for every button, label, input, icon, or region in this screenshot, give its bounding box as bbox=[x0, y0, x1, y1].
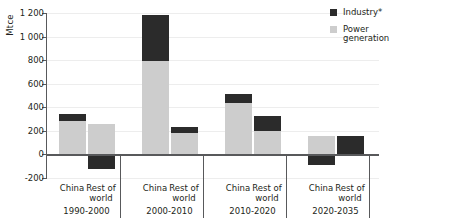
bar-china-1990-2000[interactable] bbox=[59, 13, 86, 178]
chart-container: Mtce 1 2001 0008006004002000-200 ChinaRe… bbox=[0, 0, 452, 221]
category-label-line2: world bbox=[163, 194, 206, 204]
bar-segment-industry bbox=[225, 94, 252, 102]
legend-label-industry: Industry* bbox=[343, 8, 450, 18]
bar-segment-industry bbox=[308, 154, 335, 165]
legend-item-industry[interactable]: Industry* bbox=[330, 8, 450, 18]
y-axis-tick-label: 1 200 bbox=[4, 9, 44, 18]
y-axis-tick-label: 200 bbox=[4, 127, 44, 136]
y-axis-tick-label: 400 bbox=[4, 103, 44, 112]
bar-china-2000-2010[interactable] bbox=[142, 13, 169, 178]
period-label: 2010-2020 bbox=[220, 207, 285, 217]
bar-segment-industry bbox=[171, 127, 198, 133]
chart-legend: Industry* Power generation bbox=[330, 8, 450, 51]
category-label-line2: world bbox=[329, 194, 372, 204]
y-axis-spine bbox=[46, 13, 47, 178]
bar-segment-power-generation bbox=[88, 124, 115, 154]
bar-segment-power-generation bbox=[254, 131, 281, 155]
category-label: Rest ofworld bbox=[163, 184, 206, 203]
bar-china-2010-2020[interactable] bbox=[225, 13, 252, 178]
category-label: Rest ofworld bbox=[329, 184, 372, 203]
zero-baseline bbox=[46, 154, 379, 155]
period-label: 1990-2000 bbox=[54, 207, 119, 217]
bar-segment-industry bbox=[59, 114, 86, 121]
bar-segment-industry bbox=[337, 136, 364, 155]
period-label: 2000-2010 bbox=[137, 207, 202, 217]
y-axis-tick-label: 0 bbox=[4, 150, 44, 159]
bar-rest-of-world-1990-2000[interactable] bbox=[88, 13, 115, 178]
category-label: Rest ofworld bbox=[80, 184, 123, 203]
bar-segment-power-generation bbox=[225, 103, 252, 155]
legend-swatch-industry-icon bbox=[330, 9, 337, 16]
bar-segment-power-generation bbox=[308, 136, 335, 155]
bar-rest-of-world-2010-2020[interactable] bbox=[254, 13, 281, 178]
bar-segment-power-generation bbox=[59, 121, 86, 154]
bar-rest-of-world-2000-2010[interactable] bbox=[171, 13, 198, 178]
y-axis-tick-label: 600 bbox=[4, 80, 44, 89]
category-label-line2: world bbox=[246, 194, 289, 204]
legend-label-power-generation-line2: generation bbox=[343, 34, 450, 44]
bar-segment-industry bbox=[254, 116, 281, 131]
bar-segment-power-generation bbox=[171, 133, 198, 155]
category-label: Rest ofworld bbox=[246, 184, 289, 203]
legend-item-power-generation[interactable]: Power generation bbox=[330, 25, 450, 44]
gridline bbox=[46, 178, 379, 179]
category-label-line2: world bbox=[80, 194, 123, 204]
y-axis-tick-label: 1 000 bbox=[4, 33, 44, 42]
period-label: 2020-2035 bbox=[303, 207, 368, 217]
bar-segment-industry bbox=[142, 15, 169, 61]
legend-swatch-power-generation-icon bbox=[330, 26, 337, 33]
bar-segment-power-generation bbox=[142, 61, 169, 154]
y-axis-tick-label: -200 bbox=[4, 174, 44, 183]
bar-segment-industry bbox=[88, 154, 115, 169]
y-axis-tick-label: 800 bbox=[4, 56, 44, 65]
